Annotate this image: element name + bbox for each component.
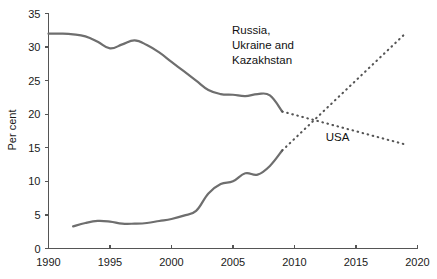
usa-label-line-0: USA	[326, 131, 350, 143]
y-axis-title: Per cent	[6, 110, 18, 151]
x-axis-tick-label: 1995	[98, 256, 122, 268]
chart-container: 05101520253035 1990199520002005201020152…	[0, 0, 437, 279]
y-axis-tick-label: 5	[34, 209, 40, 221]
y-axis-tick-label: 20	[28, 108, 40, 120]
y-axis-tick-label: 10	[28, 175, 40, 187]
x-axis-tick-label: 2005	[221, 256, 245, 268]
russia-label-line-2: Kazakhstan	[232, 54, 292, 66]
russia-label-line-0: Russia,	[232, 24, 270, 36]
usa-label: USA	[326, 131, 350, 143]
line-chart: 05101520253035 1990199520002005201020152…	[0, 0, 437, 279]
x-axis-tick-label: 2000	[159, 256, 183, 268]
x-axis-tick-label: 2015	[344, 256, 368, 268]
x-axis-tick-label: 2020	[405, 256, 429, 268]
y-axis-tick-labels: 05101520253035	[28, 8, 40, 255]
axes	[45, 14, 418, 249]
y-axis-tick-label: 25	[28, 75, 40, 87]
y-axis-tick-label: 30	[28, 41, 40, 53]
series-line-2	[73, 150, 282, 226]
data-series	[49, 34, 406, 227]
russia-label-line-1: Ukraine and	[232, 39, 294, 51]
x-axis-tick-label: 1990	[36, 256, 60, 268]
y-axis-tick-label: 15	[28, 142, 40, 154]
russia-label: Russia,Ukraine andKazakhstan	[232, 24, 294, 66]
x-axis-tick-label: 2010	[282, 256, 306, 268]
x-axis-tick-labels: 1990199520002005201020152020	[36, 256, 429, 268]
y-axis-tick-label: 35	[28, 8, 40, 20]
y-axis-tick-label: 0	[34, 243, 40, 255]
